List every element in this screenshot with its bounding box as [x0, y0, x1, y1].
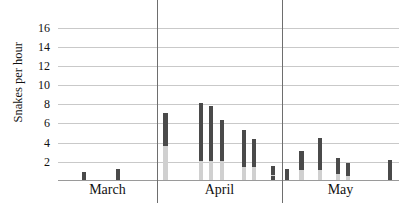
bar-segment-upper [242, 130, 246, 166]
bar-segment-upper [199, 103, 203, 161]
bar-segment-upper [285, 169, 289, 181]
gridline [58, 47, 399, 48]
month-separator [282, 0, 283, 203]
bar-segment-upper [252, 139, 256, 167]
y-tick-label-8: 8 [8, 98, 50, 110]
y-tick-label-12: 12 [8, 60, 50, 72]
bar [163, 113, 167, 180]
bar [346, 163, 350, 180]
gridline [58, 28, 399, 29]
bar [209, 106, 213, 180]
bar-segment-upper [346, 163, 350, 176]
gridline [58, 85, 399, 86]
bar-segment-lower [163, 146, 167, 180]
bar [271, 176, 275, 180]
bar-segment-lower [252, 167, 256, 180]
plot-area [58, 18, 399, 181]
bar-segment-lower [318, 170, 322, 180]
bar [388, 160, 392, 180]
bar-segment-upper [271, 166, 275, 176]
bar-segment-upper [336, 158, 340, 174]
month-label-march: March [67, 183, 147, 197]
bar-segment-upper [388, 160, 392, 180]
bar [299, 151, 303, 180]
gridline [58, 104, 399, 105]
y-tick-label-4: 4 [8, 137, 50, 149]
bar-segment-upper [299, 151, 303, 170]
y-tick-label-6: 6 [8, 117, 50, 129]
bar [318, 138, 322, 180]
bar-segment-upper [116, 169, 120, 181]
bar [252, 139, 256, 180]
bar-segment-lower [299, 170, 303, 180]
bar-segment-lower [209, 161, 213, 180]
bar-segment-lower [199, 161, 203, 180]
gridline [58, 143, 399, 144]
bar [336, 158, 340, 180]
bar-segment-upper [271, 176, 275, 180]
y-tick-label-14: 14 [8, 41, 50, 53]
bar [285, 169, 289, 181]
bar-segment-lower [220, 161, 224, 180]
gridline [58, 123, 399, 124]
bar-segment-upper [318, 138, 322, 171]
bar [242, 130, 246, 180]
bar [116, 169, 120, 181]
chart-container: Snakes per hour 246810121416 MarchAprilM… [0, 0, 407, 209]
bar-segment-upper [163, 113, 167, 147]
month-separator [157, 0, 158, 203]
gridline [58, 66, 399, 67]
y-tick-label-16: 16 [8, 22, 50, 34]
y-tick-label-10: 10 [8, 79, 50, 91]
month-label-may: May [301, 183, 381, 197]
bar [82, 172, 86, 180]
bar-segment-lower [242, 167, 246, 180]
bar [220, 120, 224, 180]
bar-segment-lower [336, 174, 340, 180]
bar [199, 103, 203, 180]
y-tick-label-2: 2 [8, 156, 50, 168]
bar-segment-lower [346, 176, 350, 180]
bar-segment-upper [82, 172, 86, 180]
x-axis-baseline [58, 180, 399, 181]
bar-segment-upper [220, 120, 224, 161]
month-label-april: April [179, 183, 259, 197]
bar-segment-upper [209, 106, 213, 161]
